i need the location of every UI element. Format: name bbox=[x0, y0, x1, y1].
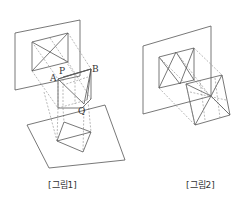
horizontal-projection-quad bbox=[57, 122, 91, 152]
label-A: A bbox=[49, 73, 57, 83]
horizontal-plane bbox=[27, 105, 125, 168]
figure-1: A P B Q bbox=[15, 20, 125, 168]
vertical-plane-2 bbox=[143, 26, 211, 114]
diagram-canvas: A P B Q bbox=[0, 0, 247, 199]
vertical-projection-rect-2 bbox=[159, 48, 194, 88]
line-PB bbox=[63, 69, 91, 77]
figure-1-caption: [그림1] bbox=[48, 178, 77, 191]
horizontal-projection-diagonal bbox=[57, 132, 91, 141]
label-Q: Q bbox=[78, 106, 85, 116]
figure-2-caption: [그림2] bbox=[186, 178, 215, 191]
label-B: B bbox=[92, 64, 99, 74]
label-P: P bbox=[59, 66, 65, 76]
cube-2-face bbox=[186, 75, 230, 125]
figure-2 bbox=[143, 26, 230, 125]
